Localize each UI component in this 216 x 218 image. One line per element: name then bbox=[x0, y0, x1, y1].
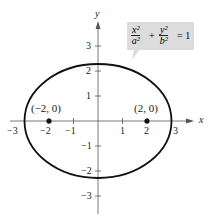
equation-callout: x² a² + y² b² = 1 bbox=[127, 22, 194, 50]
x-tick-label: 3 bbox=[173, 125, 178, 136]
y-tick-label: −3 bbox=[81, 190, 92, 201]
focus-left-point bbox=[46, 118, 51, 123]
focus-right-point bbox=[144, 118, 149, 123]
y-tick-label: −1 bbox=[81, 140, 92, 151]
x-axis-arrow-icon bbox=[186, 119, 194, 124]
y-tick-label: 1 bbox=[86, 90, 91, 101]
x-tick-label: 2 bbox=[144, 125, 149, 136]
equation-fraction-y: y² b² bbox=[159, 25, 168, 46]
equation-fraction-x: x² a² bbox=[131, 25, 140, 46]
x-tick-label: 1 bbox=[120, 125, 125, 136]
focus-left-label: (−2, 0) bbox=[31, 102, 61, 114]
y-tick-label: 2 bbox=[86, 65, 91, 76]
y-tick-label: 3 bbox=[86, 40, 91, 51]
y-axis-label: y bbox=[95, 8, 99, 19]
x-axis-label: x bbox=[199, 114, 203, 125]
x-tick-label: −3 bbox=[7, 125, 18, 136]
y-tick-label: −2 bbox=[81, 165, 92, 176]
focus-right-label: (2, 0) bbox=[134, 102, 158, 114]
equation-equals: = 1 bbox=[177, 30, 190, 41]
x-tick-label: −1 bbox=[65, 125, 76, 136]
equation-plus: + bbox=[149, 30, 155, 41]
y-axis-arrow-icon bbox=[96, 21, 101, 29]
x-tick-label: −2 bbox=[40, 125, 51, 136]
